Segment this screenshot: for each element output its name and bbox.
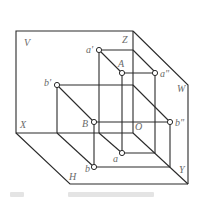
label-b-double-prime: b" [175, 117, 185, 128]
label-y-axis: Y [179, 164, 186, 175]
y-axis [133, 133, 188, 184]
figure-caption-cropped [6, 190, 196, 199]
label-x-axis: X [19, 119, 27, 130]
point-b-prime [54, 82, 59, 87]
z-to-b-double-prime [133, 85, 170, 122]
w-plane-frame [133, 31, 188, 184]
label-b-prime: b' [44, 77, 52, 88]
h-plane-frame [16, 133, 188, 184]
point-a [119, 150, 124, 155]
label-w-plane: W [177, 83, 187, 94]
x-to-b-diagonal [57, 133, 94, 167]
label-a: a [113, 153, 118, 164]
point-a-prime [96, 47, 101, 52]
point-A [119, 70, 124, 75]
label-v-plane: V [24, 37, 32, 48]
point-B [91, 119, 96, 124]
b-prime-to-B [57, 85, 94, 122]
label-o-origin: O [135, 121, 142, 132]
x-to-a-diagonal [99, 133, 122, 153]
z-to-a-double-prime [133, 50, 155, 72]
label-b: b [85, 163, 90, 174]
point-b-double-prime [167, 119, 172, 124]
point-b [91, 164, 96, 169]
point-a-double-prime [152, 70, 157, 75]
label-a-double-prime: a" [160, 68, 170, 79]
three-plane-projection-diagram: V Z W X O H Y a' A a" a b' B b" b [0, 0, 199, 200]
label-A: A [117, 58, 125, 69]
label-z-axis: Z [122, 34, 128, 45]
label-a-prime: a' [86, 44, 94, 55]
label-h-plane: H [68, 171, 77, 182]
label-B: B [82, 118, 88, 129]
v-plane-frame [16, 31, 133, 133]
